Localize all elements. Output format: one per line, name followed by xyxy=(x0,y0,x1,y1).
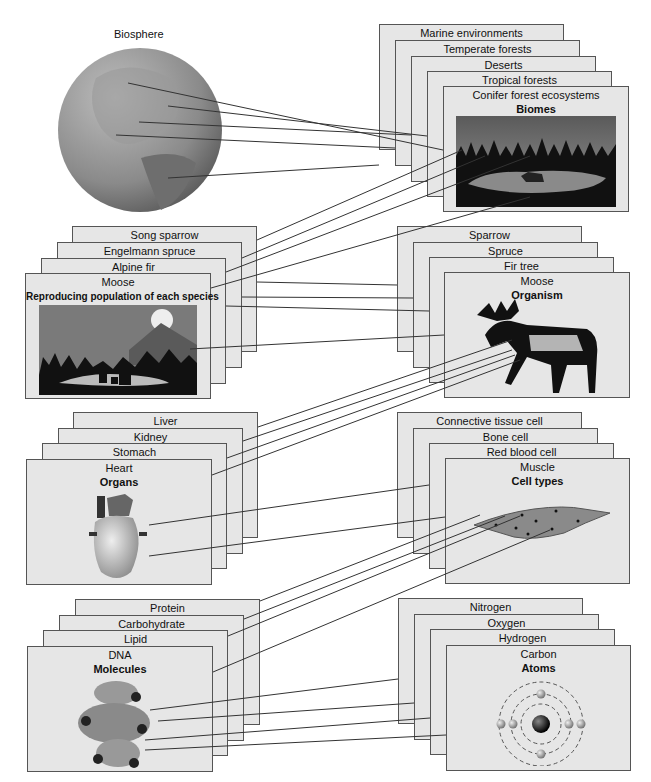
cell-card-muscle: Muscle Cell types xyxy=(445,458,630,584)
card-title: Temperate forests xyxy=(396,43,579,56)
card-title: Carbon xyxy=(447,648,630,661)
card-title: Sparrow xyxy=(398,229,581,242)
muscle-cells-illustration xyxy=(474,503,614,543)
level-title: Atoms xyxy=(447,662,630,675)
population-card-moose: Moose Reproducing population of each spe… xyxy=(25,273,211,399)
card-title: Heart xyxy=(27,462,211,475)
card-title: Engelmann spruce xyxy=(58,245,241,258)
level-title: Organs xyxy=(27,476,211,489)
card-title: Connective tissue cell xyxy=(398,415,581,428)
heart-illustration xyxy=(89,492,149,586)
carbon-atom-illustration xyxy=(491,676,591,766)
molecule-card-dna: DNA Molecules xyxy=(27,646,213,772)
card-title: Nitrogen xyxy=(399,601,582,614)
card-title: Lipid xyxy=(44,633,227,646)
card-title: Muscle xyxy=(446,461,629,474)
card-title: Song sparrow xyxy=(73,229,256,242)
level-title: Cell types xyxy=(446,475,629,488)
level-title: Reproducing population of each species xyxy=(26,290,210,303)
dna-molecule-illustration xyxy=(76,677,156,771)
card-title: Hydrogen xyxy=(431,632,614,645)
card-title: Protein xyxy=(76,602,259,615)
card-title: Marine environments xyxy=(380,27,563,40)
biome-card-conifer: Conifer forest ecosystems Biomes xyxy=(443,86,629,212)
level-title: Biomes xyxy=(444,103,628,116)
biosphere-label: Biosphere xyxy=(114,28,164,40)
card-title: DNA xyxy=(28,649,212,662)
conifer-forest-illustration xyxy=(456,116,616,207)
level-title: Molecules xyxy=(28,663,212,676)
atom-card-carbon: Carbon Atoms xyxy=(446,645,631,771)
card-title: Stomach xyxy=(43,446,226,459)
moose-population-illustration xyxy=(39,305,197,395)
card-title: Moose xyxy=(26,276,210,289)
moose-skeleton-illustration xyxy=(467,295,617,395)
globe-illustration xyxy=(56,48,226,214)
card-title: Moose xyxy=(445,275,629,288)
organism-card-moose: Moose Organism xyxy=(444,272,630,398)
card-title: Conifer forest ecosystems xyxy=(444,89,628,102)
organ-card-heart: Heart Organs xyxy=(26,459,212,585)
card-title: Liver xyxy=(74,415,257,428)
